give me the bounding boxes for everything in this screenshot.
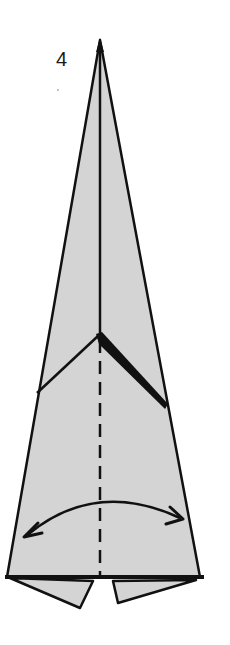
right-flap: [113, 580, 196, 603]
left-flap: [10, 578, 93, 608]
paper-kite-shape: [7, 40, 200, 577]
origami-diagram: [0, 0, 230, 645]
speck: [57, 89, 59, 91]
